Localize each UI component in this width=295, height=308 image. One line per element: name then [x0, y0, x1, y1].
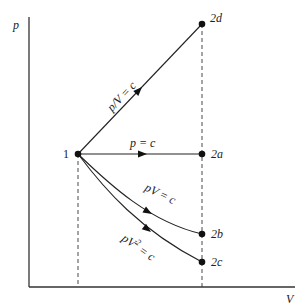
arrow-icon [142, 206, 153, 217]
x-axis-label: V [286, 292, 295, 306]
state-label-2d: 2d [210, 11, 223, 25]
state-point-2d [199, 21, 206, 28]
state-label-1: 1 [63, 147, 69, 161]
state-label-2a: 2a [211, 147, 223, 161]
process-label-polytropic-n2: pV2 = c [118, 229, 159, 264]
state-point-2c [199, 259, 206, 266]
state-label-2c: 2c [211, 255, 223, 269]
process-curve-isothermal [78, 154, 202, 234]
state-point-2a [199, 151, 206, 158]
pv-diagram: p V p/V = c p = c pV = c pV2 = c 1 2a 2b… [0, 0, 295, 308]
process-label-isothermal: pV = c [142, 180, 179, 208]
arrow-icon [138, 151, 147, 158]
arrow-icon [142, 224, 153, 235]
state-label-2b: 2b [211, 227, 223, 241]
state-point-2b [199, 231, 206, 238]
y-axis-label: p [12, 18, 19, 32]
state-point-1 [75, 151, 82, 158]
process-label-isobaric: p = c [129, 136, 156, 150]
